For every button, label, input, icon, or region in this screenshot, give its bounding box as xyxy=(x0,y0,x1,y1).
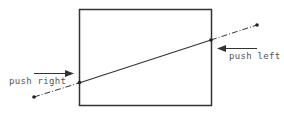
solid-line-inside xyxy=(79,40,211,83)
rectangle-box xyxy=(80,10,212,106)
endpoint-left xyxy=(32,95,36,99)
push-right-label: push right xyxy=(9,76,66,86)
dashdot-line-right xyxy=(211,25,257,40)
endpoint-right xyxy=(255,23,259,27)
intersection-right xyxy=(209,38,213,42)
intersection-left xyxy=(78,81,82,85)
push-left-label: push left xyxy=(229,51,280,61)
